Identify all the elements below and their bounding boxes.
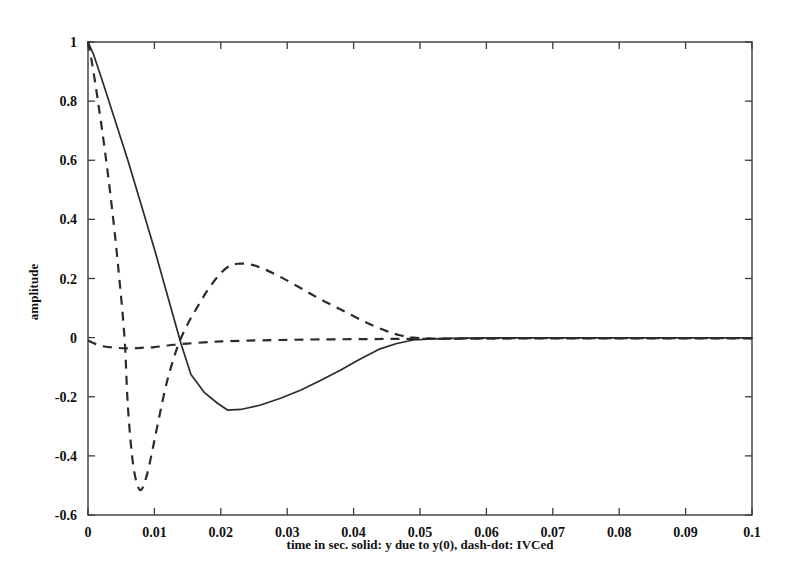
x-tick-label-1: 0.01 <box>142 525 167 540</box>
y-tick-label-7: 0.8 <box>60 94 78 109</box>
y-tick-label-4: 0.2 <box>60 272 78 287</box>
y-tick-label-5: 0.4 <box>60 212 78 227</box>
y-tick-label-2: -0.2 <box>55 390 77 405</box>
figure-container: 00.010.020.030.040.050.060.070.080.090.1… <box>0 0 797 575</box>
x-axis-label: time in sec. solid: y due to y(0), dash-… <box>287 537 555 552</box>
x-tick-label-9: 0.09 <box>673 525 698 540</box>
y-axis-label: amplitude <box>26 264 41 321</box>
y-tick-label-0: -0.6 <box>55 508 77 523</box>
x-tick-label-10: 0.1 <box>743 525 761 540</box>
y-tick-label-1: -0.4 <box>55 449 77 464</box>
y-tick-label-3: 0 <box>70 331 77 346</box>
y-tick-label-8: 1 <box>70 35 77 50</box>
x-tick-label-2: 0.02 <box>209 525 234 540</box>
x-tick-label-8: 0.08 <box>607 525 632 540</box>
y-tick-label-6: 0.6 <box>60 153 78 168</box>
x-tick-label-0: 0 <box>85 525 92 540</box>
chart-canvas: 00.010.020.030.040.050.060.070.080.090.1… <box>0 0 797 575</box>
